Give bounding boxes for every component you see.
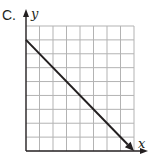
graph <box>0 0 154 166</box>
grid-lines <box>26 26 134 151</box>
